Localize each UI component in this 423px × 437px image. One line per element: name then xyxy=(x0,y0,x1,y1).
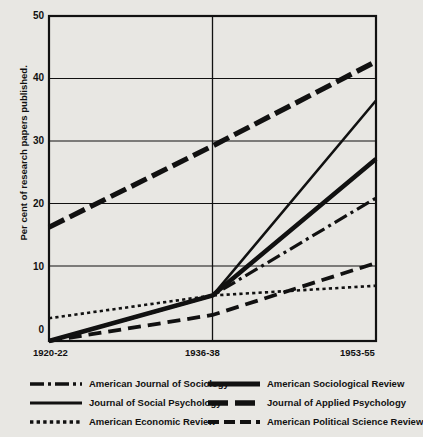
legend-item-american-journal-of-sociology: American Journal of Sociology xyxy=(30,374,229,393)
chart-legend: American Journal of Sociology Journal of… xyxy=(0,374,411,437)
legend-column-right: American Sociological Review Journal of … xyxy=(208,374,423,431)
legend-label: Journal of Social Psychology xyxy=(89,397,222,408)
legend-swatch-dash-dot xyxy=(30,378,82,390)
legend-label: Journal of Applied Psychology xyxy=(267,397,406,408)
legend-label: American Political Science Review xyxy=(267,416,423,427)
legend-item-journal-of-applied-psychology: Journal of Applied Psychology xyxy=(208,393,423,412)
legend-swatch-medium-dash xyxy=(208,416,260,428)
legend-item-american-economic-review: American Economic Review xyxy=(30,412,229,431)
plot-area xyxy=(0,0,411,375)
legend-item-american-sociological-review: American Sociological Review xyxy=(208,374,423,393)
legend-swatch-solid-thin xyxy=(30,397,82,409)
legend-label: American Sociological Review xyxy=(267,378,404,389)
legend-swatch-long-dash-thick xyxy=(208,397,260,409)
legend-column-left: American Journal of Sociology Journal of… xyxy=(30,374,229,431)
legend-swatch-solid-thick xyxy=(208,378,260,390)
legend-label: American Economic Review xyxy=(89,416,216,427)
legend-swatch-dotted xyxy=(30,416,82,428)
legend-item-american-political-science-review: American Political Science Review xyxy=(208,412,423,431)
legend-item-journal-of-social-psychology: Journal of Social Psychology xyxy=(30,393,229,412)
